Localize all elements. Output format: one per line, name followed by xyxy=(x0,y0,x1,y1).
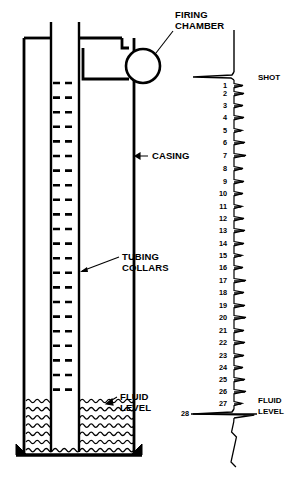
well-sounding-figure: 1234567891011121314151617181920212223242… xyxy=(0,0,307,485)
fluid-level-label-line1: FLUID xyxy=(120,391,149,402)
tubing-collars-label-line1: TUBING xyxy=(122,251,159,262)
tubing-collars-label-line2: COLLARS xyxy=(122,262,169,273)
chart-fluid-level-label-line2: LEVEL xyxy=(258,407,284,416)
fluid-level-leader-arrow xyxy=(106,397,117,405)
figure-labels: FIRING CHAMBER CASING TUBING COLLARS FLU… xyxy=(0,0,307,485)
chart-fluid-level-label-line1: FLUID xyxy=(258,396,282,405)
tubing-collars-leader-line xyxy=(82,257,119,271)
firing-chamber-label-line1: FIRING xyxy=(175,9,208,20)
fluid-level-label-line2: LEVEL xyxy=(120,402,151,413)
firing-chamber-leader-line xyxy=(156,31,173,53)
casing-label: CASING xyxy=(152,150,190,161)
firing-chamber-label-line2: CHAMBER xyxy=(175,20,224,31)
casing-leader-arrow xyxy=(135,153,148,159)
tubing-collars-leader-arrow xyxy=(80,267,88,272)
shot-label: SHOT xyxy=(258,73,280,82)
